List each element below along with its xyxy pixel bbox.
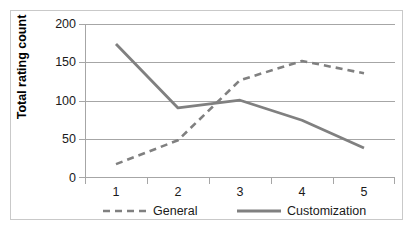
x-tick-label-1: 1 xyxy=(96,186,136,199)
legend-item-general[interactable]: General xyxy=(103,203,197,219)
x-tick-label-4: 4 xyxy=(282,186,322,199)
y-axis-title: Total rating count xyxy=(15,7,29,127)
x-tick-label-3: 3 xyxy=(220,186,260,199)
x-axis-line xyxy=(85,177,395,178)
chart-legend: General Customization xyxy=(85,203,395,219)
x-tick-mark-start xyxy=(85,178,86,184)
x-tick-mark-2 xyxy=(209,178,210,184)
x-tick-mark-end xyxy=(394,178,395,184)
x-tick-mark-1 xyxy=(147,178,148,184)
x-tick-mark-3 xyxy=(271,178,272,184)
y-tick-label-50: 50 xyxy=(42,133,76,146)
y-axis-tick-labels: 200 150 100 50 0 xyxy=(40,0,76,232)
y-tick-label-200: 200 xyxy=(42,18,76,31)
x-tick-label-2: 2 xyxy=(158,186,198,199)
legend-label-customization: Customization xyxy=(287,205,366,218)
series-line-general xyxy=(116,61,364,164)
plot-area xyxy=(85,24,395,178)
legend-swatch-general-icon xyxy=(103,205,147,217)
legend-item-customization[interactable]: Customization xyxy=(237,203,366,219)
legend-swatch-customization-icon xyxy=(237,205,281,217)
y-tick-label-100: 100 xyxy=(42,95,76,108)
x-tick-mark-4 xyxy=(333,178,334,184)
legend-label-general: General xyxy=(153,205,197,218)
y-tick-label-0: 0 xyxy=(42,172,76,185)
series-line-customization xyxy=(116,44,364,148)
y-tick-label-150: 150 xyxy=(42,56,76,69)
chart-figure: 200 150 100 50 0 Total rating count 1 2 … xyxy=(0,0,415,232)
series-plot xyxy=(85,24,395,178)
x-tick-label-5: 5 xyxy=(344,186,384,199)
